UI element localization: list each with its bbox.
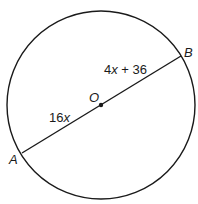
label-segment-ao: 16x bbox=[49, 110, 70, 125]
label-o: O bbox=[89, 90, 99, 105]
label-segment-ob: 4x + 36 bbox=[104, 62, 147, 77]
center-point bbox=[99, 103, 103, 107]
circle-diagram: O A B 16x 4x + 36 bbox=[0, 0, 198, 204]
label-b: B bbox=[184, 45, 193, 60]
label-a: A bbox=[8, 152, 18, 167]
